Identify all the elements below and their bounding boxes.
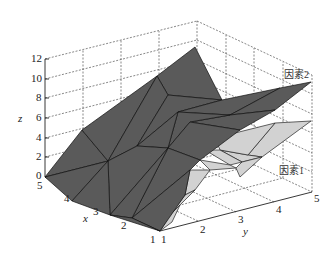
y-tick-1: 1 [161, 234, 167, 245]
x-tick-3: 3 [93, 206, 99, 217]
z-tick-6: 6 [36, 112, 42, 123]
y-tick-5: 5 [314, 193, 320, 204]
z-tick-10: 10 [31, 73, 42, 84]
x-tick-1: 1 [150, 234, 156, 245]
y-tick-4: 4 [276, 204, 282, 215]
z-tick-4: 4 [36, 132, 42, 143]
z-tick-12: 12 [31, 53, 42, 64]
y-axis-label: y [243, 226, 248, 237]
x-tick-4: 4 [64, 193, 70, 204]
z-axis-label: z [18, 113, 22, 124]
x-tick-5: 5 [37, 180, 43, 191]
x-tick-2: 2 [121, 220, 127, 231]
x-axis-label: x [83, 213, 88, 224]
z-tick-2: 2 [36, 151, 42, 162]
y-tick-3: 3 [238, 214, 244, 225]
surface-plot [0, 0, 334, 255]
z-tick-8: 8 [36, 92, 42, 103]
label-factor2: 因素2 [284, 70, 309, 80]
y-tick-2: 2 [200, 224, 206, 235]
label-factor1: 因素1 [279, 166, 304, 176]
